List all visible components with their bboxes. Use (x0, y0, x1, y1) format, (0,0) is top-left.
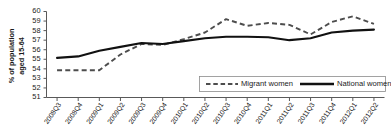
y-tick-label: 57 (32, 35, 40, 44)
y-tick-label: 58 (32, 26, 40, 35)
legend-label-national-women: National women (337, 79, 391, 88)
x-tick-label: 2012Q2 (359, 101, 380, 126)
y-tick-label: 52 (32, 83, 40, 92)
y-tick-label: 59 (32, 16, 40, 25)
y-axis-ticks: 51525354555657585960 (32, 6, 46, 101)
x-tick-label: 2009Q2 (106, 101, 127, 126)
y-axis-title: % of population aged 15-64 (7, 29, 26, 84)
y-tick-label: 55 (32, 54, 40, 63)
y-axis-title-line1: % of population (7, 29, 16, 84)
y-tick-label: 51 (32, 92, 40, 101)
x-tick-label: 2010Q4 (233, 101, 254, 126)
x-axis-ticks (57, 98, 374, 102)
y-axis-title-line2: aged 15-64 (17, 36, 26, 75)
x-tick-label: 2009Q4 (148, 101, 169, 126)
y-tick-label: 60 (32, 6, 40, 15)
x-tick-label: 2011Q4 (317, 101, 337, 125)
y-tick-label: 54 (32, 64, 40, 73)
x-tick-label: 2009Q1 (85, 101, 106, 126)
x-tick-label: 2009Q3 (127, 101, 148, 126)
x-tick-label: 2012Q1 (338, 101, 359, 126)
x-axis-labels: 2008Q32008Q42009Q12009Q22009Q32009Q42010… (43, 101, 381, 126)
x-tick-label: 2011Q2 (275, 101, 295, 125)
series-line-migrant-women (57, 16, 374, 70)
legend-label-migrant-women: Migrant women (241, 79, 293, 88)
line-chart: % of population aged 15-64 5152535455565… (0, 0, 391, 138)
x-tick-label: 2008Q3 (43, 101, 64, 126)
x-tick-label: 2010Q3 (212, 101, 233, 126)
y-tick-label: 53 (32, 73, 40, 82)
chart-container: % of population aged 15-64 5152535455565… (0, 0, 391, 138)
chart-legend: Migrant women National women (200, 77, 391, 92)
x-tick-label: 2011Q1 (254, 101, 274, 125)
y-tick-label: 56 (32, 45, 40, 54)
x-tick-label: 2010Q2 (190, 101, 211, 126)
x-tick-label: 2011Q3 (296, 101, 316, 125)
series-line-national-women (57, 30, 374, 58)
x-tick-label: 2010Q1 (169, 101, 190, 126)
x-tick-label: 2008Q4 (64, 101, 85, 126)
